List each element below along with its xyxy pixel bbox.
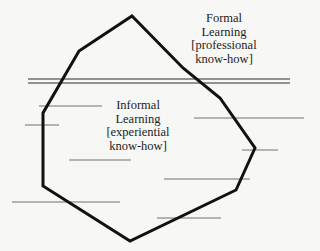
informal-line-4: know-how] xyxy=(90,140,186,154)
informal-line-2: Learning xyxy=(90,113,186,127)
informal-line-1: Informal xyxy=(90,99,186,113)
waterline xyxy=(28,79,290,83)
formal-line-1: Formal xyxy=(176,12,272,26)
formal-line-2: Learning xyxy=(176,26,272,40)
formal-line-3: [professional xyxy=(176,39,272,53)
formal-learning-label: Formal Learning [professional know-how] xyxy=(176,12,272,66)
informal-learning-label: Informal Learning [experiential know-how… xyxy=(90,99,186,153)
informal-line-3: [experiential xyxy=(90,126,186,140)
formal-line-4: know-how] xyxy=(176,53,272,67)
